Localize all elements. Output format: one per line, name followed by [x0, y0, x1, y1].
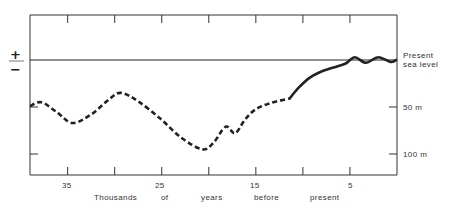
y-tick-label-100m: 100 m: [403, 150, 427, 159]
solid-sea-level-curve: [290, 57, 396, 98]
x-label-of: of: [161, 193, 169, 202]
x-tick-label-5: 5: [348, 181, 353, 190]
x-label-years: years: [201, 193, 223, 202]
sea-level-label: sea level: [403, 60, 438, 69]
x-label-present: present: [310, 193, 340, 202]
plus-sign: +: [10, 47, 21, 62]
sea-level-chart: + − Present sea level 50 m 100 m 35 25 1…: [0, 0, 451, 209]
x-tick-label-25: 25: [155, 181, 165, 190]
axis-ticks: [30, 15, 397, 175]
x-label-before: before: [254, 193, 279, 202]
minus-sign: −: [10, 62, 21, 77]
x-tick-label-15: 15: [250, 181, 260, 190]
present-label: Present: [403, 51, 434, 60]
x-label-thousands: Thousands: [94, 193, 137, 202]
dashed-sea-level-curve: [30, 93, 290, 150]
y-tick-label-50m: 50 m: [403, 103, 422, 112]
x-tick-label-35: 35: [62, 181, 72, 190]
plot-frame: [30, 15, 397, 175]
